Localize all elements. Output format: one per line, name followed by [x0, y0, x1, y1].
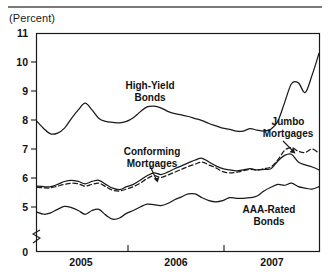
y-axis-break-icon	[33, 230, 40, 243]
chart-plot-area	[0, 0, 329, 277]
x-tick-marks	[128, 245, 224, 252]
annotation-arrows	[150, 141, 295, 183]
arrow-conforming-mortgages-head	[154, 177, 160, 182]
axis-frame	[37, 34, 320, 252]
series-path-aaa-rated-bonds	[37, 183, 319, 219]
chart-figure: (Percent) 11 10 9 8 7 6 5 0 2005 2006 20…	[0, 0, 329, 277]
series-path-high-yield-bonds	[37, 53, 319, 134]
series-paths	[37, 53, 319, 219]
